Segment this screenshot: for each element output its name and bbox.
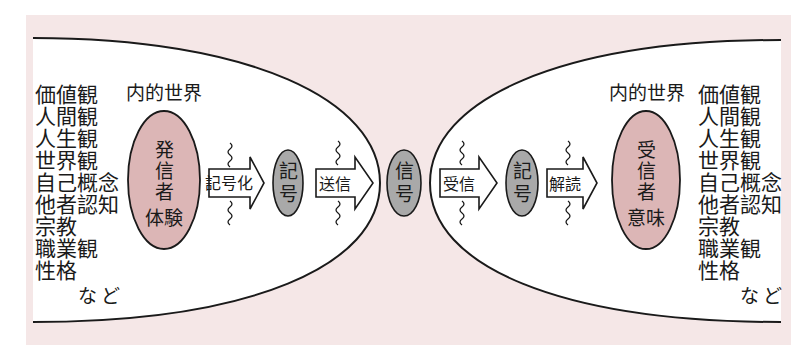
receiver-inner-world-heading: 内的世界 [609, 82, 685, 104]
receiver-label-2: 信 [637, 160, 656, 182]
sender-experience-label: 体験 [145, 207, 183, 229]
signal-label-1: 信 [395, 160, 414, 182]
sender-attr-6: 宗教 [35, 215, 77, 239]
sender-etc: など [78, 285, 124, 307]
encode-label: 記号化 [205, 174, 253, 193]
receiver-oval: 受 信 者 意味 [612, 111, 680, 249]
sender-symbol-label-2: 号 [279, 183, 298, 205]
receiver-attr-1: 人間観 [698, 105, 761, 129]
sender-attr-7: 職業観 [35, 237, 98, 261]
receiver-attr-7: 職業観 [698, 237, 761, 261]
receiver-symbol-oval: 記 号 [506, 150, 538, 216]
decode-label: 解読 [549, 175, 581, 194]
sender-label-2: 信 [155, 160, 174, 182]
receiver-label-1: 受 [637, 139, 656, 161]
sender-attr-2: 人生観 [35, 127, 98, 151]
signal-oval: 信 号 [387, 150, 421, 216]
receiver-attr-4: 自己概念 [698, 171, 782, 195]
sender-attr-1: 人間観 [35, 105, 98, 129]
sender-attr-5: 他者認知 [35, 193, 119, 217]
receiver-symbol-label-2: 号 [513, 183, 532, 205]
sender-label-3: 者 [155, 181, 174, 203]
receive-label: 受信 [443, 175, 475, 194]
receiver-attr-3: 世界観 [698, 149, 761, 173]
sender-inner-world-heading: 内的世界 [126, 82, 202, 104]
receiver-attr-0: 価値観 [698, 83, 761, 107]
signal-label-2: 号 [395, 183, 414, 205]
receiver-etc: など [740, 285, 786, 307]
receiver-symbol-label-1: 記 [513, 160, 532, 182]
communication-process-diagram: 価値観 人間観 人生観 世界観 自己概念 他者認知 宗教 職業観 性格 など 内… [0, 0, 808, 356]
sender-symbol-oval: 記 号 [273, 150, 303, 216]
sender-attr-0: 価値観 [35, 83, 98, 107]
sender-symbol-label-1: 記 [279, 160, 298, 182]
receiver-attr-8: 性格 [698, 259, 740, 283]
receiver-attr-2: 人生観 [698, 127, 761, 151]
sender-attr-8: 性格 [35, 259, 77, 283]
sender-label-1: 発 [155, 139, 174, 161]
sender-oval: 発 信 者 体験 [128, 111, 200, 249]
receiver-attr-5: 他者認知 [698, 193, 782, 217]
receiver-label-3: 者 [637, 181, 656, 203]
send-label: 送信 [319, 175, 351, 194]
receiver-meaning-label: 意味 [627, 207, 665, 229]
sender-attr-3: 世界観 [35, 149, 98, 173]
receiver-attr-6: 宗教 [698, 215, 740, 239]
sender-attr-4: 自己概念 [35, 171, 119, 195]
